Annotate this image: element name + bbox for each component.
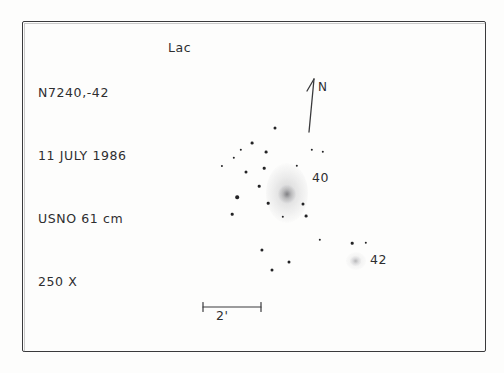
field-star [263,167,266,170]
object-designation-text: N7240,-42 [38,82,127,103]
field-star [258,185,261,188]
magnification-text: 250 X [38,271,127,292]
galaxy-label-42: 42 [370,252,387,267]
galaxy-ngc7240 [266,163,308,223]
field-star [235,195,239,199]
observation-header: N7240,-42 11 JULY 1986 USNO 61 cm 250 X [38,40,127,334]
field-star [351,242,354,245]
field-star [231,213,234,216]
north-direction-label: N [318,80,328,94]
observation-date-text: 11 JULY 1986 [38,145,127,166]
sketch-page: N7240,-42 11 JULY 1986 USNO 61 cm 250 X … [0,0,504,373]
field-star [302,203,305,206]
field-star [245,171,248,174]
instrument-text: USNO 61 cm [38,208,127,229]
field-star [265,151,268,154]
field-star [251,142,254,145]
field-star [267,202,270,205]
constellation-label: Lac [168,40,191,55]
field-star [271,269,274,272]
galaxy-label-40: 40 [312,170,329,185]
scale-bar-label: 2' [216,308,229,323]
field-star [305,215,308,218]
galaxy-ngc7242 [346,252,366,270]
scale-bar-icon [198,300,268,314]
field-star [274,127,277,130]
field-star [288,261,291,264]
